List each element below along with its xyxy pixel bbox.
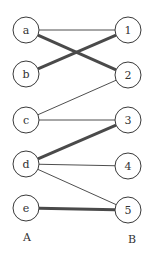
edge-d-3-matched bbox=[38, 125, 116, 159]
node-c: c bbox=[13, 107, 39, 133]
partition-labels: AB bbox=[22, 231, 136, 246]
node-4: 4 bbox=[115, 153, 141, 179]
node-label: e bbox=[23, 202, 30, 215]
node-label: 3 bbox=[125, 114, 132, 127]
node-label: a bbox=[23, 24, 30, 37]
node-1: 1 bbox=[115, 17, 141, 43]
edge-e-5-matched bbox=[39, 208, 115, 209]
node-e: e bbox=[13, 195, 39, 221]
node-label: 1 bbox=[125, 24, 132, 37]
node-2: 2 bbox=[115, 62, 141, 88]
node-label: 2 bbox=[125, 69, 132, 82]
node-d: d bbox=[13, 151, 39, 177]
partition-label-B: B bbox=[128, 233, 136, 246]
node-label: d bbox=[22, 158, 29, 171]
node-label: 4 bbox=[125, 160, 132, 173]
node-label: 5 bbox=[125, 204, 132, 217]
edge-d-5 bbox=[38, 169, 116, 204]
edge-d-4 bbox=[39, 164, 115, 165]
node-label: b bbox=[22, 68, 29, 81]
node-label: c bbox=[23, 114, 29, 127]
node-3: 3 bbox=[115, 107, 141, 133]
edges-layer bbox=[38, 30, 116, 210]
edge-c-2 bbox=[38, 80, 116, 115]
node-a: a bbox=[13, 17, 39, 43]
partition-label-A: A bbox=[22, 231, 32, 244]
node-b: b bbox=[13, 61, 39, 87]
node-5: 5 bbox=[115, 197, 141, 223]
bipartite-graph: abcde12345 AB bbox=[0, 0, 154, 257]
